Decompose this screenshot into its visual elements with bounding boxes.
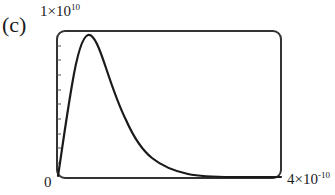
chart-plot-area: [0, 0, 335, 195]
plot-frame: [57, 31, 281, 178]
data-curve: [58, 35, 281, 177]
